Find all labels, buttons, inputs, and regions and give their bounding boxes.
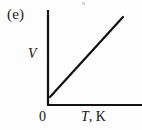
plot-area <box>0 0 142 130</box>
origin-label: 0 <box>39 110 46 124</box>
figure-panel-e: (e) V 0 T, K <box>0 0 142 130</box>
x-axis-label-symbol: T <box>81 109 89 124</box>
y-axis-label: V <box>28 47 37 61</box>
x-axis-label-unit: , K <box>89 109 106 124</box>
x-axis-label: T, K <box>81 110 106 124</box>
data-line-v-vs-t <box>50 17 123 97</box>
